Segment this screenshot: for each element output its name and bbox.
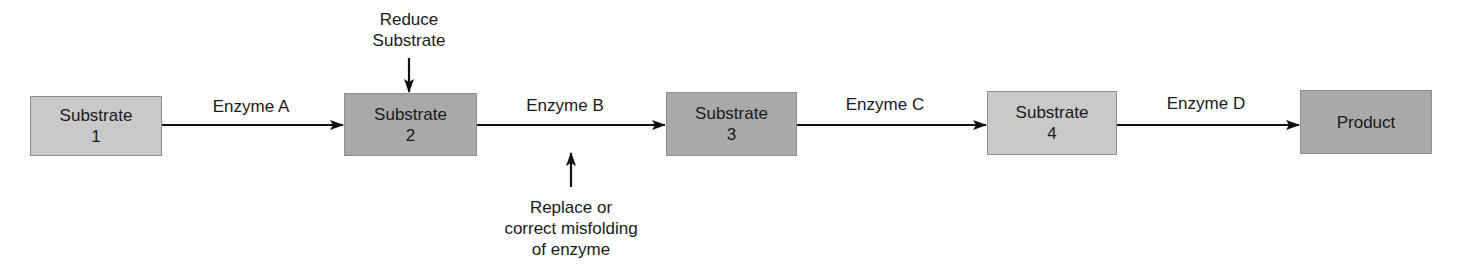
edge-label-enzyme-d: Enzyme D: [1151, 93, 1261, 114]
intervention-line: Substrate: [349, 30, 469, 51]
node-substrate-4: Substrate 4: [987, 91, 1117, 155]
edge-label-enzyme-c: Enzyme C: [830, 94, 940, 115]
node-label: Substrate: [695, 103, 768, 124]
node-substrate-2: Substrate 2: [344, 93, 477, 156]
node-number: 4: [1047, 123, 1056, 144]
edge-label-enzyme-a: Enzyme A: [196, 96, 306, 117]
node-product: Product: [1300, 90, 1432, 154]
node-substrate-3: Substrate 3: [666, 92, 797, 156]
node-number: 3: [727, 124, 736, 145]
intervention-line: of enzyme: [486, 239, 656, 260]
node-label: Substrate: [1016, 102, 1089, 123]
edge-label-enzyme-b: Enzyme B: [510, 95, 620, 116]
intervention-line: Replace or: [486, 197, 656, 218]
intervention-replace-enzyme: Replace or correct misfolding of enzyme: [486, 197, 656, 260]
node-number: 1: [91, 126, 100, 147]
node-number: 2: [406, 125, 415, 146]
intervention-reduce-substrate: Reduce Substrate: [349, 9, 469, 51]
node-substrate-1: Substrate 1: [30, 96, 162, 156]
intervention-line: Reduce: [349, 9, 469, 30]
intervention-line: correct misfolding: [486, 218, 656, 239]
node-label: Substrate: [60, 105, 133, 126]
node-label: Product: [1337, 112, 1396, 133]
node-label: Substrate: [374, 104, 447, 125]
